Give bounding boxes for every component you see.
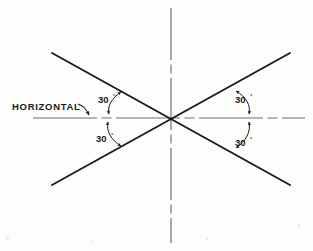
scan-speck [92,240,94,242]
angle-label-lower-right: 30 [235,137,246,148]
diagram-canvas: HORIZONTAL 30 ° 30 ° 30 ° 30 ° [0,0,313,251]
angle-arc-lower-left-path [108,122,121,146]
angle-label-upper-right: 30 [235,94,246,105]
scan-speck [98,160,100,162]
centerline-group [33,8,305,243]
angle-label-lower-left: 30 [96,133,107,144]
degree-symbol-upper-right: ° [250,93,253,99]
horizontal-label: HORIZONTAL [12,101,81,112]
angle-arc-lower-left [108,122,121,146]
degree-symbol-lower-right: ° [250,136,253,142]
scan-speck [286,60,288,62]
degree-symbol-lower-left: ° [111,132,114,138]
scan-speck [297,224,300,227]
scan-speck [6,236,9,240]
angle-diagram: HORIZONTAL 30 ° 30 ° 30 ° 30 ° [0,0,313,251]
angle-label-upper-right-group: 30 ° [235,93,253,105]
angle-label-lower-right-group: 30 ° [235,136,253,148]
angle-label-upper-left: 30 [98,94,109,105]
scan-speck [206,238,209,240]
